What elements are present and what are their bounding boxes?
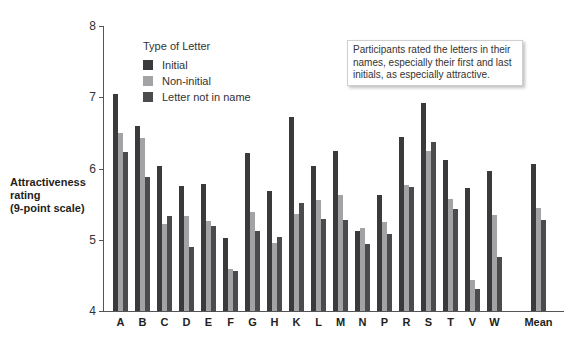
y-tick-label: 5 <box>84 234 96 246</box>
y-axis-label-line: (9-point scale) <box>10 202 86 215</box>
bar-f-letter-not-in-name <box>233 271 238 311</box>
legend-label: Initial <box>162 59 188 71</box>
bar-mean-letter-not-in-name <box>541 220 546 311</box>
legend-item-non-initial: Non-initial <box>143 75 211 87</box>
annotation-box: Participants rated the letters in their … <box>347 40 523 86</box>
y-tick <box>99 26 103 27</box>
bar-m-letter-not-in-name <box>343 220 348 311</box>
bar-d-letter-not-in-name <box>189 247 194 311</box>
legend-swatch-icon <box>143 60 153 70</box>
legend-label: Letter not in name <box>162 91 251 103</box>
y-axis-label: Attractiveness rating (9-point scale) <box>10 176 86 215</box>
bar-k-letter-not-in-name <box>299 203 304 311</box>
bar-e-letter-not-in-name <box>211 226 216 312</box>
y-tick <box>99 169 103 170</box>
bar-h-letter-not-in-name <box>277 237 282 311</box>
x-tick-label: Mean <box>519 316 559 328</box>
legend-swatch-icon <box>143 92 153 102</box>
y-axis-label-line: Attractiveness <box>10 176 86 189</box>
legend-title: Type of Letter <box>143 40 210 52</box>
y-tick <box>99 97 103 98</box>
y-tick-label: 4 <box>84 305 96 317</box>
bar-v-letter-not-in-name <box>475 289 480 311</box>
bar-g-letter-not-in-name <box>255 231 260 311</box>
legend-label: Non-initial <box>162 75 211 87</box>
y-tick <box>99 311 103 312</box>
bar-c-letter-not-in-name <box>167 216 172 311</box>
bar-t-letter-not-in-name <box>453 209 458 311</box>
bar-r-letter-not-in-name <box>409 187 414 311</box>
y-tick <box>99 240 103 241</box>
bar-n-letter-not-in-name <box>365 244 370 311</box>
y-axis-label-line: rating <box>10 189 86 202</box>
x-tick-label: W <box>480 316 510 328</box>
legend-item-initial: Initial <box>143 59 188 71</box>
bar-b-letter-not-in-name <box>145 177 150 311</box>
y-tick-label: 8 <box>84 20 96 32</box>
x-axis <box>103 311 564 312</box>
bar-p-letter-not-in-name <box>387 234 392 311</box>
y-tick-label: 6 <box>84 163 96 175</box>
bar-w-letter-not-in-name <box>497 257 502 311</box>
bar-l-letter-not-in-name <box>321 219 326 311</box>
bar-s-letter-not-in-name <box>431 142 436 311</box>
legend-swatch-icon <box>143 76 153 86</box>
y-axis <box>103 26 104 311</box>
y-tick-label: 7 <box>84 91 96 103</box>
bar-a-letter-not-in-name <box>123 152 128 311</box>
legend-item-letter-not-in-name: Letter not in name <box>143 91 251 103</box>
